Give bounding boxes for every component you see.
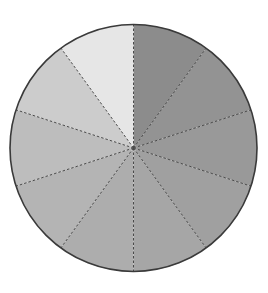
pie-chart-canvas (0, 0, 268, 293)
pie-chart (0, 0, 268, 293)
